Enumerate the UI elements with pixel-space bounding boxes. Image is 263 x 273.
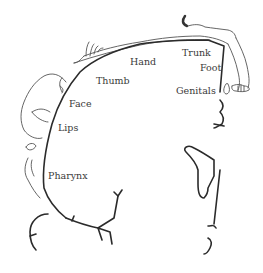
cortex-bottom-curve [66,196,118,228]
label-hand: Hand [130,57,156,67]
cortex-line [30,40,224,254]
label-face: Face [69,99,92,109]
label-lips: Lips [58,123,78,133]
temporal-curve [30,214,48,250]
eye-outline [60,78,63,93]
leg-outline-outer [228,44,240,90]
label-pharynx: Pharynx [48,171,88,181]
pharynx-outline [25,158,40,198]
medial-hook [204,238,211,254]
label-trunk: Trunk [182,48,211,58]
cortex-branch-top [114,190,122,196]
medial-brace [214,100,224,128]
foot-outline [232,85,250,92]
pharynx-inner-outline [31,160,34,176]
medial-line [214,170,220,224]
tongue-outline [26,143,36,150]
ventricle-shape [185,146,214,198]
label-foot: Foot [200,63,221,73]
head-icon [183,16,187,26]
genitals-outline [224,84,230,94]
label-thumb: Thumb [96,76,130,86]
wrist-outline [74,56,84,63]
medial-tick [208,226,216,229]
label-genitals: Genitals [176,86,216,96]
temporal-notch [30,234,36,236]
leg-outline-inner [236,38,249,88]
cortex-branch [98,228,112,244]
diagram-drawing [0,0,263,273]
homunculus-diagram: Trunk Hand Foot Thumb Genitals Face Lips… [0,0,263,273]
lips-outline [32,109,50,122]
